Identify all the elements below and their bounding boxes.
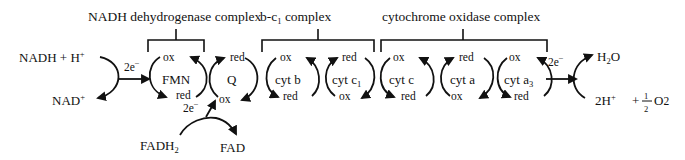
nadh-label: NADH + H+ [19,49,85,65]
carrier-cyt-b: ox cyt b red [266,51,319,102]
electrons-label-2: 2e− [548,53,564,68]
svg-text:red: red [230,51,245,63]
svg-text:red: red [459,51,474,63]
oxygen-reduction-arrow [574,55,592,98]
complex-title-bc1: b-c1 complex [260,9,332,26]
svg-text:ox: ox [219,93,231,105]
svg-text:ox: ox [163,51,175,63]
carrier-cyt-a3: ox cyt a3 red [498,51,552,102]
svg-text:cyt c: cyt c [389,72,414,87]
fadh-electron-arrow [206,101,215,117]
carrier-fmn: ox FMN red [150,51,207,101]
svg-text:ox: ox [393,51,405,63]
electrons-label-fadh: 2e− [183,99,199,114]
svg-text:Q: Q [227,72,237,87]
fadh2-label: FADH2 [140,138,179,155]
carrier-cyt-a: red cyt a ox [441,51,493,102]
svg-text:red: red [401,90,416,102]
svg-text:red: red [283,90,298,102]
svg-text:cyt c1: cyt c1 [332,72,361,89]
fad-label: FAD [220,140,245,155]
svg-text:red: red [514,90,529,102]
water-label: H2O [597,49,620,66]
svg-text:2: 2 [644,104,648,114]
svg-text:red: red [342,51,357,63]
complex-title-nadh-dehydrogenase: NADH dehydrogenase complex [88,9,261,24]
bracket-bc1 [262,29,374,52]
nadh-oxidation-arrow [98,57,119,98]
svg-text:ox: ox [451,90,463,102]
svg-text:FMN: FMN [162,72,191,87]
svg-text:cyt b: cyt b [275,72,301,87]
bracket-cytochrome-oxidase [381,29,547,52]
nad-label: NAD+ [52,92,85,108]
svg-text:+: + [632,93,639,108]
carrier-q: red Q ox [210,51,258,105]
svg-text:ox: ox [509,51,521,63]
electron-transport-chain-diagram: NADH dehydrogenase complex b-c1 complex … [0,0,685,160]
svg-text:cyt a3: cyt a3 [504,72,533,89]
svg-text:O2: O2 [654,93,669,108]
svg-text:ox: ox [280,51,292,63]
protons-oxygen-label: 2H+ + 1 2 O2 [595,91,669,114]
svg-text:1: 1 [644,91,648,101]
svg-text:cyt a: cyt a [450,72,475,87]
carrier-cyt-c: ox cyt c red [381,51,434,102]
electrons-label-1: 2e− [124,58,140,73]
bracket-nadh-dehydrogenase [148,29,204,52]
svg-text:red: red [176,89,191,101]
svg-text:2H+: 2H+ [595,92,616,108]
complex-title-cytochrome-oxidase: cytochrome oxidase complex [382,9,540,24]
svg-text:ox: ox [339,90,351,102]
fadh-oxidation-arrow [180,118,236,135]
carrier-cyt-c1: red cyt c1 ox [326,51,375,102]
